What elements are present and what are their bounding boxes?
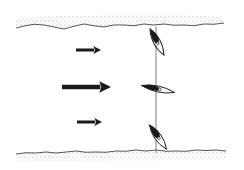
element-top bbox=[147, 27, 167, 57]
element-bottom bbox=[147, 123, 170, 152]
top-wall-boundary bbox=[16, 15, 224, 29]
diagram-canvas bbox=[0, 0, 244, 170]
blade-elements bbox=[141, 27, 176, 151]
arrow-bottom-icon bbox=[77, 118, 102, 126]
flow-diagram bbox=[0, 0, 244, 170]
element-middle bbox=[141, 83, 176, 96]
arrow-middle-icon bbox=[62, 81, 111, 93]
velocity-arrows bbox=[62, 46, 111, 126]
top-wall-stipple bbox=[16, 15, 224, 29]
arrow-top-icon bbox=[76, 46, 101, 54]
bottom-wall-boundary bbox=[16, 150, 226, 161]
